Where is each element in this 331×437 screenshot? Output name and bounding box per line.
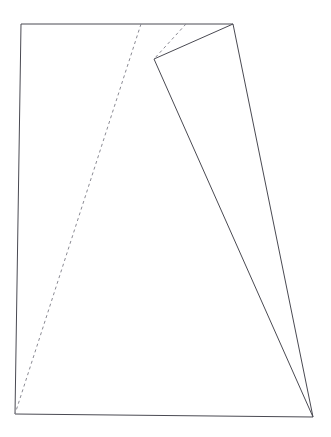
figure-canvas bbox=[0, 0, 331, 437]
geometric-line-figure bbox=[0, 0, 331, 437]
folded-flap-edge-lower bbox=[154, 59, 313, 417]
crease-line-short bbox=[154, 24, 186, 59]
folded-flap-edge-upper bbox=[154, 24, 233, 59]
figure-group bbox=[15, 24, 313, 417]
outer-sheet-quadrilateral bbox=[15, 24, 313, 417]
crease-line-long bbox=[15, 24, 141, 414]
